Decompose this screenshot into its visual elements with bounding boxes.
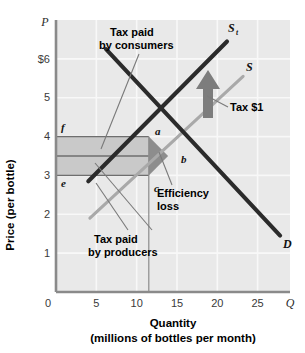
- y-tick-3: 3: [44, 169, 50, 181]
- point-label-b: b: [181, 153, 187, 165]
- y-tick-5: 5: [44, 91, 50, 103]
- y-tick-2: 2: [44, 208, 50, 220]
- x-tick-25: 25: [251, 297, 263, 309]
- annotation-efficiency-line2: loss: [157, 200, 179, 212]
- x-tick-5: 5: [93, 297, 99, 309]
- y-tick-4: 4: [44, 130, 50, 142]
- y-axis-symbol: P: [40, 15, 49, 29]
- curve-label-supply-posttax: S: [228, 21, 235, 35]
- curve-label-demand: D: [282, 237, 292, 251]
- y-tick-6: $6: [38, 53, 50, 65]
- annotation-consumers-line1: Tax paid: [110, 26, 154, 38]
- point-label-a: a: [155, 125, 161, 137]
- x-tick-15: 15: [171, 297, 183, 309]
- x-axis-symbol: Q: [286, 296, 295, 310]
- x-axis-title: Quantity: [150, 317, 197, 329]
- y-axis-title: Price (per bottle): [4, 159, 16, 251]
- figure-supply-demand-tax: P Q $6 5 4 3 2 1 0 5 10 15 20 25 S t S D…: [0, 0, 305, 353]
- x-tick-0: 0: [45, 297, 51, 309]
- annotation-producers-line2: by producers: [88, 246, 158, 258]
- x-tick-10: 10: [131, 297, 143, 309]
- annotation-producers-line1: Tax paid: [94, 233, 138, 245]
- chart-canvas: P Q $6 5 4 3 2 1 0 5 10 15 20 25 S t S D…: [0, 0, 305, 353]
- point-label-e: e: [61, 177, 66, 189]
- x-axis-subtitle: (millions of bottles per month): [90, 332, 256, 344]
- y-tick-1: 1: [44, 247, 50, 259]
- annotation-consumers-line2: by consumers: [99, 39, 174, 51]
- annotation-tax-amount: Tax $1: [230, 101, 263, 113]
- x-tick-20: 20: [211, 297, 223, 309]
- annotation-efficiency-line1: Efficiency: [157, 187, 210, 199]
- curve-label-supply-pretax: S: [246, 60, 253, 74]
